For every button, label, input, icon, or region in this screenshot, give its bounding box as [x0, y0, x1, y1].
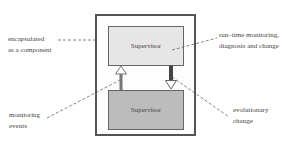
connectors-layer — [0, 0, 292, 150]
runtime-line2: diagnosis and change — [219, 41, 279, 52]
encapsulated-line1: encapsulated — [8, 34, 52, 45]
runtime-annotation: run–time monitoring, diagnosis and chang… — [219, 30, 279, 52]
monitoring-annotation: monitoring events — [9, 110, 40, 132]
encapsulated-annotation: encapsulated as a component — [8, 34, 52, 56]
monitoring-leader-line — [47, 80, 120, 118]
evolutionary-change-arrow — [166, 66, 177, 90]
evolutionary-line1: evolutionary — [233, 105, 268, 116]
evolutionary-line2: change — [233, 116, 268, 127]
evolutionary-leader-line — [172, 77, 229, 117]
evolutionary-annotation: evolutionary change — [233, 105, 268, 127]
encapsulated-line2: as a component — [8, 45, 52, 56]
runtime-leader-line — [172, 38, 217, 50]
runtime-line1: run–time monitoring, — [219, 30, 279, 41]
monitoring-events-arrow — [116, 66, 127, 90]
monitoring-line1: monitoring — [9, 110, 40, 121]
monitoring-line2: events — [9, 121, 40, 132]
